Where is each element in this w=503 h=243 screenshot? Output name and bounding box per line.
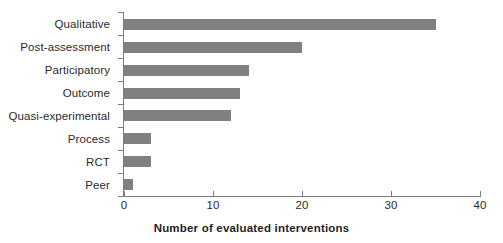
y-axis-tick-mark <box>118 81 124 82</box>
bar-row <box>124 127 480 150</box>
bar <box>124 88 240 99</box>
x-axis-tick-label: 40 <box>474 199 487 211</box>
x-axis-tick-mark <box>124 191 125 197</box>
y-axis-tick-mark <box>118 35 124 36</box>
y-axis-tick-label: Peer <box>0 173 117 196</box>
x-axis-tick-label: 30 <box>385 199 398 211</box>
plot-area <box>124 13 480 196</box>
y-axis-tick-mark <box>118 127 124 128</box>
y-axis-tick-mark <box>118 173 124 174</box>
y-axis-tick-label: Post-assessment <box>0 36 117 59</box>
bar-row <box>124 36 480 59</box>
y-axis-tick-label: Participatory <box>0 59 117 82</box>
x-axis-tick-mark <box>391 191 392 197</box>
y-axis-labels: Qualitative Post-assessment Participator… <box>0 13 117 196</box>
x-axis-tick-label: 20 <box>296 199 309 211</box>
y-axis-tick-label: RCT <box>0 150 117 173</box>
x-axis-tick-label: 10 <box>207 199 220 211</box>
bar <box>124 156 151 167</box>
x-axis-tick-mark <box>213 191 214 197</box>
x-axis-title: Number of evaluated interventions <box>0 222 503 234</box>
x-axis-tick-mark <box>302 191 303 197</box>
y-axis-tick-mark <box>118 104 124 105</box>
y-axis-tick-mark <box>118 150 124 151</box>
bar <box>124 19 436 30</box>
y-axis-tick-label: Qualitative <box>0 13 117 36</box>
y-axis-tick-label: Quasi-experimental <box>0 105 117 128</box>
bar-row <box>124 82 480 105</box>
bar <box>124 65 249 76</box>
bar-row <box>124 150 480 173</box>
y-axis-tick-mark <box>118 58 124 59</box>
bar-series <box>124 13 480 196</box>
bar <box>124 110 231 121</box>
bar <box>124 42 302 53</box>
bar-row <box>124 105 480 128</box>
y-axis-tick-label: Outcome <box>0 82 117 105</box>
bar <box>124 133 151 144</box>
x-axis-tick-label: 0 <box>121 199 127 211</box>
bar-row <box>124 13 480 36</box>
bar-chart: Qualitative Post-assessment Participator… <box>0 0 503 243</box>
bar <box>124 179 133 190</box>
y-axis-tick-mark <box>118 12 124 13</box>
x-axis-tick-mark <box>480 191 481 197</box>
y-axis-tick-label: Process <box>0 127 117 150</box>
bar-row <box>124 59 480 82</box>
